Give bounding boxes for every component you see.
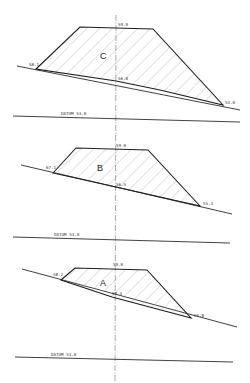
- section-label-c: C: [100, 51, 107, 61]
- section-label-a: A: [100, 278, 106, 288]
- datum-line-c: [13, 116, 240, 122]
- right-ground-level-a: 55.8: [194, 313, 205, 318]
- datum-label-a: DATUM 53.0: [51, 352, 77, 357]
- centre-ground-level-a: 58.4: [112, 291, 123, 296]
- formation-level-a: 59.0: [113, 262, 124, 267]
- section-a: 59.0 58.4 58.2 55.8 A DATUM 53.0: [15, 262, 237, 362]
- formation-level-c: 59.0: [118, 22, 129, 27]
- right-ground-level-c: 54.0: [225, 100, 236, 105]
- centre-ground-level-b: 56.5: [116, 182, 127, 187]
- embankment-a: [61, 268, 191, 318]
- embankment-c: [36, 27, 223, 105]
- right-ground-level-b: 55.4: [203, 201, 214, 206]
- left-ground-level-b: 67.1: [46, 165, 57, 170]
- cross-section-diagram: 59.0 56.0 58.1 54.0 C DATUM 53.0 59.0 56…: [0, 0, 250, 383]
- datum-line-b: [13, 237, 230, 243]
- datum-label-b: DATUM 53.0: [54, 232, 80, 237]
- centre-ground-level-c: 56.0: [118, 76, 129, 81]
- section-b: 59.0 56.5 67.1 55.4 B DATUM 53.0: [13, 143, 232, 243]
- left-ground-level-c: 58.1: [29, 62, 40, 67]
- formation-level-b: 59.0: [116, 143, 127, 148]
- left-ground-level-a: 58.2: [53, 272, 64, 277]
- datum-line-a: [15, 357, 233, 362]
- section-c: 59.0 56.0 58.1 54.0 C DATUM 53.0: [13, 22, 240, 122]
- datum-label-c: DATUM 53.0: [61, 111, 87, 116]
- embankment-b: [53, 148, 200, 206]
- section-label-b: B: [97, 163, 103, 173]
